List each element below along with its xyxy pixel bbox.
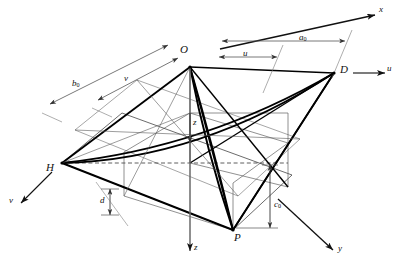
axis-v-line — [21, 172, 52, 203]
axis-label-x: x — [379, 5, 383, 14]
dimension-label-v: v — [124, 74, 128, 83]
dimension-label-u: u — [243, 49, 248, 58]
dimension-label-z: z — [193, 118, 197, 127]
dimension-label-d: d — [100, 196, 105, 205]
diagram-canvas: O D H P x y z u v a0 b0 c0 d u v z — [0, 0, 395, 264]
vertex-label-P: P — [234, 232, 241, 243]
axis-y-line — [278, 199, 333, 250]
vertex-label-D: D — [340, 64, 348, 75]
ruled-generators — [190, 67, 334, 230]
dimension-label-a0: a0 — [299, 33, 307, 42]
axis-label-y: y — [338, 244, 342, 253]
dimension-label-b0: b0 — [72, 79, 80, 88]
axis-label-z: z — [194, 243, 198, 252]
hyperbolic-paraboloid-figure — [0, 0, 395, 264]
axis-x-line — [220, 15, 375, 49]
dimension-c0 — [236, 165, 278, 228]
vertex-dots — [60, 65, 335, 231]
saddle-surface-curves — [62, 67, 334, 230]
vertex-label-H: H — [46, 162, 54, 173]
dimension-b0 — [42, 45, 168, 122]
quad-edges — [62, 67, 334, 230]
vertex-label-O: O — [180, 44, 188, 55]
axis-label-v: v — [9, 196, 13, 205]
dimension-label-c0: c0 — [274, 200, 281, 209]
axis-label-u: u — [387, 64, 392, 73]
